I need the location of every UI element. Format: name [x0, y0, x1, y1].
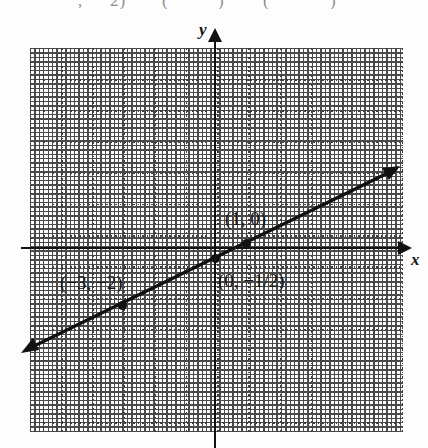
plotted-line	[0, 0, 428, 448]
point-label-y-intercept: (0, −1/2)	[218, 270, 285, 292]
line-arrowhead-lower-left-icon	[21, 338, 39, 353]
point-marker-y-intercept	[211, 254, 220, 263]
point-marker-third-point	[118, 301, 127, 310]
point-label-x-intercept: (1, 0)	[225, 208, 266, 230]
graph-figure: , 2) ( ) ( )	[0, 0, 428, 448]
point-label-third-point: (−3, −2)	[60, 272, 123, 294]
point-marker-x-intercept	[242, 239, 251, 248]
